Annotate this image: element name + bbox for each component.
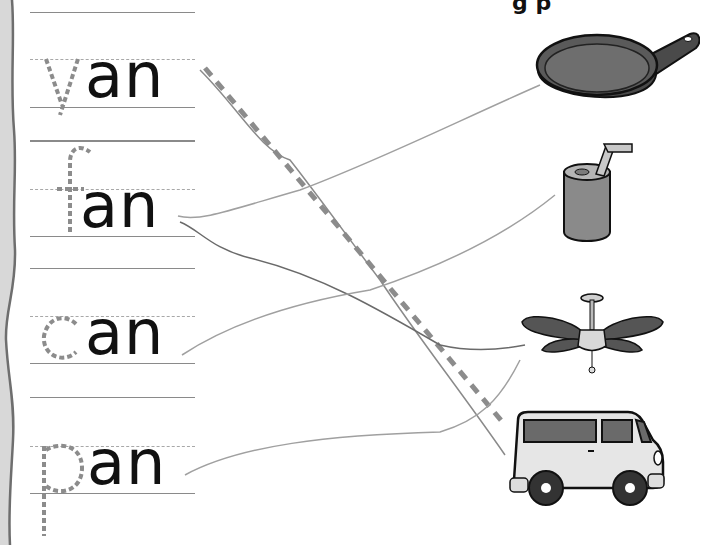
- pencil-line-pan-to-fan: [185, 360, 520, 475]
- pencil-line-van: [200, 70, 505, 455]
- picture-ceiling-fan: [520, 290, 665, 375]
- picture-soda-can: [560, 140, 650, 250]
- pencil-line-can-to-can: [182, 195, 555, 355]
- pencil-line-fan-to-pan: [178, 85, 540, 218]
- traced-letter-p: [38, 440, 93, 540]
- example-dashed-line: [205, 68, 505, 425]
- header-partial-text: g p: [512, 0, 551, 15]
- word-row-pan: an: [30, 0, 195, 545]
- pencil-line-fan-to-fan: [180, 222, 525, 350]
- word-rest-an: an: [87, 432, 166, 494]
- picture-van: [508, 410, 670, 510]
- picture-frying-pan: [530, 20, 700, 120]
